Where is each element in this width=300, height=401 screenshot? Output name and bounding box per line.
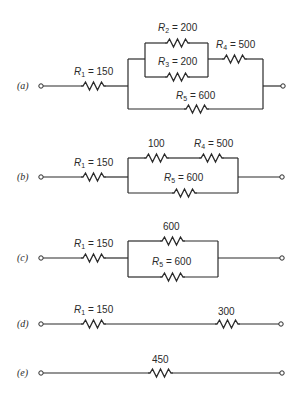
resistor-label-r5-a: R5 = 600 — [176, 90, 216, 102]
input-terminal-e — [39, 371, 43, 375]
circuit-label-a: (a) — [17, 80, 29, 92]
resistor-r5-a — [184, 105, 209, 113]
resistor-r5-b — [172, 189, 197, 197]
resistor-label-r1-b: R1 = 150 — [74, 157, 114, 169]
resistor-label-r2-a: R2 = 200 — [158, 22, 198, 34]
resistor-label-r4-a: R4 = 500 — [216, 39, 256, 51]
resistor-r5-c — [160, 273, 185, 281]
resistor-450-e — [148, 369, 173, 377]
input-terminal-a — [39, 84, 43, 88]
circuit-label-b: (b) — [17, 171, 29, 183]
resistor-r3-a — [165, 73, 190, 81]
resistor-label-r5-c: R5 = 600 — [152, 256, 192, 268]
input-terminal-b — [39, 175, 43, 179]
resistor-r1-c — [81, 254, 106, 262]
resistor-r4-a — [222, 55, 247, 63]
output-terminal-c — [280, 256, 284, 260]
output-terminal-a — [281, 84, 285, 88]
output-terminal-e — [280, 371, 284, 375]
resistor-r4-b — [199, 154, 224, 162]
circuit-b: (b) R1 = 150 100 R4 = 500 R5 = 600 — [17, 138, 284, 197]
output-terminal-b — [280, 175, 284, 179]
resistor-r1-d — [81, 320, 106, 328]
circuit-a: (a) R1 = 150 R2 — [17, 22, 285, 113]
resistor-100-b — [144, 154, 169, 162]
resistor-300-d — [215, 320, 240, 328]
circuit-d: (d) R1 = 150 300 — [17, 304, 283, 330]
resistor-label-600-c: 600 — [163, 221, 180, 232]
resistor-label-r1-a: R1 = 150 — [74, 66, 114, 78]
output-terminal-d — [279, 322, 283, 326]
resistor-label-r1-d: R1 = 150 — [74, 304, 114, 316]
resistor-label-100-b: 100 — [148, 138, 165, 149]
resistor-label-r1-c: R1 = 150 — [74, 238, 114, 250]
circuit-c: (c) R1 = 150 600 R5 = 600 — [17, 221, 284, 281]
resistor-label-r5-b: R5 = 600 — [164, 172, 204, 184]
circuit-reduction-diagram: (a) R1 = 150 R2 — [0, 0, 300, 401]
resistor-600-c — [160, 237, 185, 245]
input-terminal-d — [39, 322, 43, 326]
resistor-label-r4-b: R4 = 500 — [194, 138, 234, 150]
circuit-label-d: (d) — [17, 318, 29, 330]
resistor-label-r3-a: R3 = 200 — [158, 56, 198, 68]
input-terminal-c — [39, 256, 43, 260]
resistor-r2-a — [165, 39, 190, 47]
resistor-label-300-d: 300 — [218, 306, 235, 317]
resistor-r1-a — [81, 82, 106, 90]
resistor-label-450-e: 450 — [152, 354, 169, 365]
circuit-label-c: (c) — [17, 252, 29, 264]
resistor-r1-b — [81, 173, 106, 181]
circuit-label-e: (e) — [17, 367, 29, 379]
circuit-e: (e) 450 — [17, 354, 284, 379]
